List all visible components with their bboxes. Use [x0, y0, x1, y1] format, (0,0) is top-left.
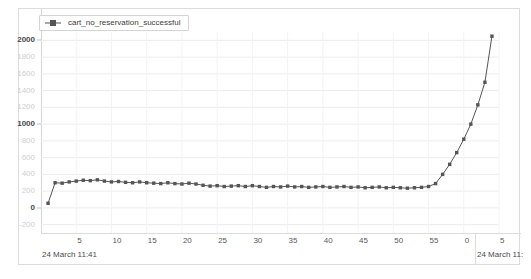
- data-point-marker[interactable]: [434, 182, 437, 185]
- data-point-marker[interactable]: [293, 185, 296, 188]
- data-point-marker[interactable]: [335, 185, 338, 188]
- y-tick-label: 2000: [17, 36, 35, 44]
- data-point-marker[interactable]: [75, 179, 78, 182]
- y-tick-label: 400: [22, 170, 35, 178]
- data-point-marker[interactable]: [53, 181, 56, 184]
- data-point-marker[interactable]: [356, 185, 359, 188]
- y-tick-mark: [37, 207, 41, 208]
- data-point-marker[interactable]: [103, 179, 106, 182]
- data-point-marker[interactable]: [145, 181, 148, 184]
- data-point-marker[interactable]: [230, 184, 233, 187]
- data-point-marker[interactable]: [378, 185, 381, 188]
- data-point-marker[interactable]: [180, 182, 183, 185]
- x-tick-label: 20: [183, 237, 192, 245]
- y-tick-label: 1200: [17, 103, 35, 111]
- data-point-marker[interactable]: [349, 186, 352, 189]
- data-point-marker[interactable]: [124, 181, 127, 184]
- data-point-marker[interactable]: [392, 186, 395, 189]
- data-point-marker[interactable]: [117, 180, 120, 183]
- data-point-marker[interactable]: [96, 178, 99, 181]
- data-point-marker[interactable]: [420, 186, 423, 189]
- x-tick-label: 15: [148, 237, 157, 245]
- data-point-marker[interactable]: [110, 180, 113, 183]
- x-tick-label: 5: [77, 237, 81, 245]
- data-point-marker[interactable]: [462, 138, 465, 141]
- data-point-marker[interactable]: [223, 185, 226, 188]
- data-point-marker[interactable]: [187, 181, 190, 184]
- data-point-marker[interactable]: [490, 34, 493, 37]
- data-point-marker[interactable]: [201, 184, 204, 187]
- y-tick-label: 1000: [17, 120, 35, 128]
- series-line: [48, 36, 492, 203]
- data-series-layer[interactable]: [41, 32, 499, 233]
- x-tick-label: 0: [465, 237, 469, 245]
- y-tick-label: 800: [22, 137, 35, 145]
- data-point-marker[interactable]: [159, 182, 162, 185]
- legend-marker-icon: [45, 19, 61, 27]
- x-tick-label: 25: [218, 237, 227, 245]
- data-point-marker[interactable]: [258, 185, 261, 188]
- data-point-marker[interactable]: [307, 186, 310, 189]
- x-tick-label: 35: [289, 237, 298, 245]
- data-point-marker[interactable]: [46, 202, 49, 205]
- data-point-marker[interactable]: [363, 186, 366, 189]
- x-tick-label: 30: [253, 237, 262, 245]
- data-point-marker[interactable]: [244, 185, 247, 188]
- data-point-marker[interactable]: [131, 181, 134, 184]
- data-point-marker[interactable]: [152, 181, 155, 184]
- data-point-marker[interactable]: [406, 186, 409, 189]
- data-point-marker[interactable]: [272, 185, 275, 188]
- x-axis-tick-labels: 5101520253035404550550524 March 11:4124 …: [19, 237, 519, 265]
- chart-screenshot: 2000180016001400120010008006004002000-20…: [0, 0, 531, 279]
- data-point-marker[interactable]: [441, 173, 444, 176]
- data-point-marker[interactable]: [166, 181, 169, 184]
- chart-legend[interactable]: cart_no_reservation_successful: [39, 15, 189, 31]
- data-point-marker[interactable]: [448, 163, 451, 166]
- chart-panel: 2000180016001400120010008006004002000-20…: [18, 8, 520, 265]
- data-point-marker[interactable]: [427, 185, 430, 188]
- y-tick-label: 200: [22, 187, 35, 195]
- data-point-marker[interactable]: [237, 184, 240, 187]
- data-point-marker[interactable]: [413, 186, 416, 189]
- data-point-marker[interactable]: [321, 185, 324, 188]
- data-point-marker[interactable]: [208, 184, 211, 187]
- data-point-marker[interactable]: [67, 180, 70, 183]
- data-point-marker[interactable]: [89, 179, 92, 182]
- data-point-marker[interactable]: [342, 185, 345, 188]
- x-tick-label: 40: [324, 237, 333, 245]
- data-point-marker[interactable]: [314, 185, 317, 188]
- y-tick-label: 1600: [17, 70, 35, 78]
- x-tick-label: 5: [500, 237, 504, 245]
- data-point-marker[interactable]: [251, 184, 254, 187]
- x-tick-label: 10: [112, 237, 121, 245]
- x-tick-label: 45: [359, 237, 368, 245]
- data-point-marker[interactable]: [469, 122, 472, 125]
- data-point-marker[interactable]: [173, 182, 176, 185]
- y-tick-mark: [37, 40, 41, 41]
- data-point-marker[interactable]: [385, 186, 388, 189]
- plot-area: 2000180016001400120010008006004002000-20…: [41, 32, 499, 233]
- data-point-marker[interactable]: [215, 184, 218, 187]
- y-tick-label: 1400: [17, 87, 35, 95]
- data-point-marker[interactable]: [370, 186, 373, 189]
- data-point-marker[interactable]: [328, 186, 331, 189]
- y-tick-label: -200: [19, 221, 35, 229]
- data-point-marker[interactable]: [82, 179, 85, 182]
- data-point-marker[interactable]: [399, 186, 402, 189]
- y-tick-mark: [37, 124, 41, 125]
- y-tick-label: 1800: [17, 53, 35, 61]
- data-point-marker[interactable]: [286, 184, 289, 187]
- data-point-marker[interactable]: [455, 151, 458, 154]
- data-point-marker[interactable]: [138, 180, 141, 183]
- x-tick-label: 50: [394, 237, 403, 245]
- data-point-marker[interactable]: [60, 181, 63, 184]
- x-axis-date-label: 24 March 11:: [477, 251, 523, 259]
- y-tick-label: 600: [22, 154, 35, 162]
- data-point-marker[interactable]: [476, 103, 479, 106]
- data-point-marker[interactable]: [279, 185, 282, 188]
- x-tick-label: 55: [430, 237, 439, 245]
- data-point-marker[interactable]: [483, 81, 486, 84]
- data-point-marker[interactable]: [265, 186, 268, 189]
- data-point-marker[interactable]: [300, 185, 303, 188]
- data-point-marker[interactable]: [194, 182, 197, 185]
